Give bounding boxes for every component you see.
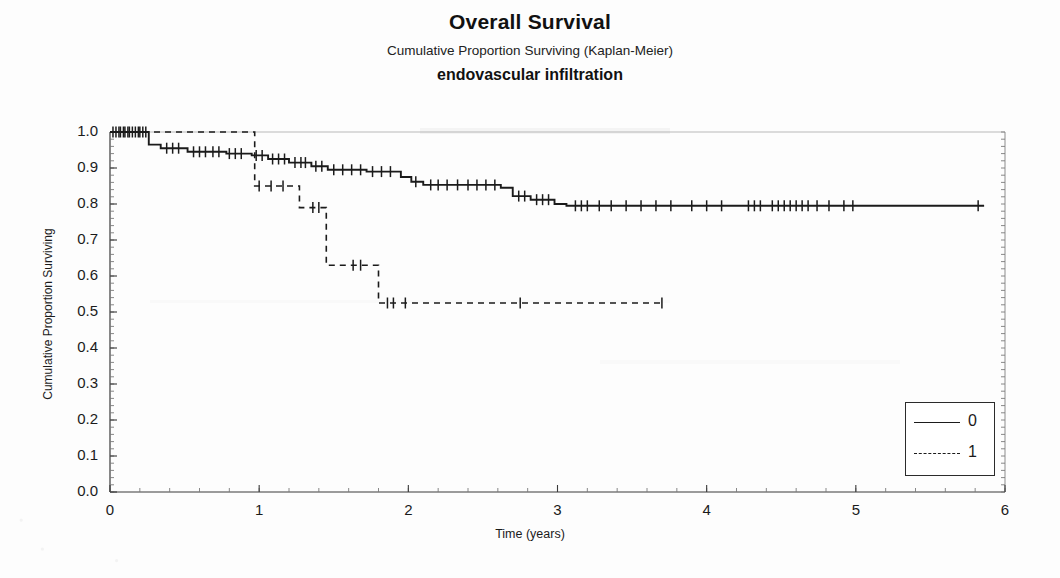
- x-tick-label: 3: [543, 501, 573, 518]
- legend-label: 0: [968, 412, 977, 430]
- x-tick-label: 1: [244, 501, 274, 518]
- y-tick-label: 0.0: [54, 482, 98, 499]
- legend-item-1[interactable]: 1: [906, 440, 994, 470]
- survival-curve-0: [110, 132, 984, 206]
- chart-legend: 01: [905, 402, 995, 476]
- paper-blotch-0: [420, 128, 670, 134]
- x-tick-label: 2: [393, 501, 423, 518]
- legend-line-swatch-1: [914, 453, 960, 454]
- x-tick-label: 6: [990, 501, 1020, 518]
- legend-label: 1: [968, 443, 977, 461]
- y-tick-label: 0.6: [54, 266, 98, 283]
- x-tick-label: 4: [692, 501, 722, 518]
- y-tick-label: 0.9: [54, 158, 98, 175]
- legend-item-0[interactable]: 0: [906, 409, 994, 439]
- y-tick-label: 0.2: [54, 410, 98, 427]
- y-tick-label: 0.5: [54, 302, 98, 319]
- y-tick-label: 0.7: [54, 230, 98, 247]
- survival-curve-1: [110, 132, 665, 303]
- plot-area: Cumulative Proportion Surviving Time (ye…: [0, 0, 1060, 578]
- y-tick-label: 0.1: [54, 446, 98, 463]
- x-tick-label: 5: [841, 501, 871, 518]
- y-tick-label: 0.4: [54, 338, 98, 355]
- y-axis-title: Cumulative Proportion Surviving: [41, 204, 55, 424]
- y-tick-label: 0.3: [54, 374, 98, 391]
- legend-line-swatch-0: [914, 422, 960, 423]
- y-tick-label: 1.0: [54, 122, 98, 139]
- chart-page: Overall Survival Cumulative Proportion S…: [0, 0, 1060, 578]
- paper-blotch-2: [600, 360, 900, 364]
- y-tick-label: 0.8: [54, 194, 98, 211]
- x-axis-title: Time (years): [0, 527, 1060, 541]
- x-tick-label: 0: [95, 501, 125, 518]
- kaplan-meier-plot: [0, 0, 1060, 578]
